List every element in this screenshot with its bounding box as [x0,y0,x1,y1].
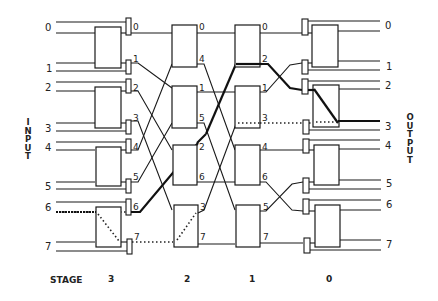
stage-label: 0 [326,274,332,284]
input-vertical-label: INPUT [24,117,31,161]
s1-out-label: 0 [262,22,268,32]
s2-out-label: 6 [199,172,205,182]
output-label: 7 [386,239,392,250]
s1-out-label: 6 [262,172,268,182]
switch-s3-1 [95,87,121,128]
network-diagram: 0 1 2 3 4 5 6 7 [0,0,438,301]
s2-out-label: 0 [199,22,205,32]
s2-out-label: 4 [199,54,205,64]
stage-label: 3 [108,274,114,284]
s3-out-label: 5 [133,172,139,182]
input-label: 6 [45,202,51,213]
switch-s1-0 [235,25,260,67]
switch-s1-3 [236,205,260,247]
input-label: 3 [45,123,51,134]
s1-out-label: 2 [262,54,268,64]
switch-s0-0 [312,25,338,67]
stage-1-switches [235,25,262,247]
s2-out-label: 2 [199,142,205,152]
switch-s0-2 [314,145,339,185]
stage-0-tags [302,19,310,253]
switch-s2-0 [172,25,197,67]
switch-s2-2 [173,145,197,185]
input-label: 7 [45,241,51,252]
vertical-letter: T [25,151,31,161]
output-label: 3 [385,121,391,132]
s1-out-label: 7 [263,232,269,242]
input-label: 0 [45,22,51,33]
output-vertical-label: OUTPUT [406,112,413,165]
output-label: 2 [385,80,391,91]
switch-s2-1 [172,86,197,128]
switch-s3-2 [96,147,121,186]
s3-out-label: 7 [134,232,140,242]
input-label: 1 [46,63,52,74]
stage-3-switches [95,27,127,247]
switch-s3-0 [95,27,121,68]
switch-s1-2 [235,145,260,185]
input-label: 5 [45,181,51,192]
output-label: 6 [386,199,392,210]
s2-out-label: 5 [199,113,205,123]
input-label: 4 [45,142,51,153]
input-port-labels: 0 1 2 3 4 5 6 7 [45,22,52,252]
output-port-labels: 0 1 2 3 4 5 6 7 [385,20,392,250]
s3-out-label: 6 [133,202,139,212]
output-label: 5 [386,178,392,189]
output-label: 0 [385,20,391,31]
output-label: 4 [385,140,391,151]
stage-3-output-labels: 0 1 2 3 4 5 6 7 [133,22,140,242]
input-label: 2 [45,82,51,93]
output-label: 1 [386,61,392,72]
switch-s0-3 [315,205,340,247]
s2-out-label: 7 [200,232,206,242]
stage-3-tags [126,18,132,254]
stage-0-switches [308,25,340,247]
s3-out-label: 0 [133,22,139,32]
vertical-letter: T [407,155,413,165]
stage-label: 1 [249,274,255,284]
stage-caption: STAGE [50,275,82,285]
s1-out-label: 3 [262,113,268,123]
stage-row: STAGE 3 2 1 0 [50,274,332,285]
switch-s1-1 [235,86,260,128]
stage-label: 2 [184,274,190,284]
